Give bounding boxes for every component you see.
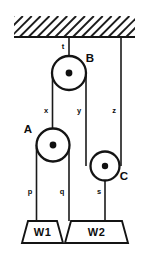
hatch-stroke [20,16,41,37]
pulley-hub-C [102,163,108,169]
pulley-hub-B [66,70,73,77]
ceiling-group [0,16,148,37]
pulley-label-B: B [86,52,94,64]
hatch-lines [0,16,148,37]
rope-label-x: x [44,106,49,115]
hatch-stroke [46,16,67,37]
diagram-canvas: BACtxyzpqsW1W2 [0,0,148,253]
rope-label-t: t [62,42,65,51]
hatch-stroke [2,16,23,37]
rope-label-q: q [60,187,65,196]
hatch-stroke [135,16,148,37]
rope-label-s: s [97,187,101,196]
hatch-stroke [100,16,121,37]
rope-label-p: p [28,187,33,196]
pulley-diagram: BACtxyzpqsW1W2 [0,0,148,253]
ceiling-hatch-icon [0,16,148,37]
hatch-stroke [108,16,129,37]
pulleys-group [37,56,120,181]
pulley-hub-A [50,142,57,149]
hatch-stroke [91,16,112,37]
hatch-stroke [64,16,85,37]
hatch-stroke [144,16,148,37]
hatch-stroke [11,16,32,37]
hatch-stroke [126,16,147,37]
hatch-stroke [117,16,138,37]
rope-label-z: z [112,106,116,115]
pulley-label-C: C [120,170,128,182]
pulley-label-A: A [24,123,32,135]
hatch-stroke [29,16,50,37]
hatch-stroke [73,16,94,37]
weight-label-W2: W2 [88,226,105,238]
hatch-stroke [0,16,14,37]
rope-label-y: y [77,106,82,115]
hatch-stroke [82,16,103,37]
hatch-stroke [55,16,76,37]
hatch-stroke [37,16,58,37]
weight-label-W1: W1 [34,226,51,238]
